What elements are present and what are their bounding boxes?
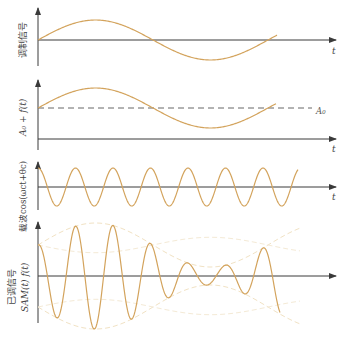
panel-carrier: t 载波cos(ωct+θc) <box>18 161 336 232</box>
y-axis-label: 调制信号 <box>17 22 28 58</box>
lower-envelope <box>38 285 300 329</box>
y-axis-label: 载波cos(ωct+θc) <box>18 161 28 232</box>
am-signal-curve <box>38 225 280 328</box>
lower-envelope-mirror <box>38 299 300 314</box>
y-axis-label-line2: SAM(t) f(t) <box>20 262 30 312</box>
y-axis-label-line1: 已调信号 <box>6 269 17 305</box>
t-axis-label: t <box>332 192 336 202</box>
am-modulation-diagram: t 调制信号 A₀ t A₀ + f(t) t 载波cos(ωct+θc) 已调… <box>0 0 344 342</box>
t-axis-label: t <box>332 144 336 154</box>
t-axis-label: t <box>332 46 336 56</box>
panel-am-signal: 已调信号 SAM(t) f(t) <box>6 222 336 329</box>
panel-biased-signal: A₀ t A₀ + f(t) <box>18 80 336 154</box>
a0-label: A₀ <box>315 106 326 116</box>
y-axis-label: A₀ + f(t) <box>18 98 28 137</box>
panel-modulating-signal: t 调制信号 <box>17 8 336 66</box>
